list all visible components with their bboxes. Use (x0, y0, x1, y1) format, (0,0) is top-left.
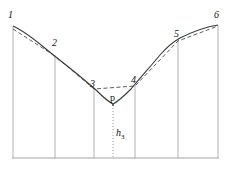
node-label-6: 6 (214, 10, 219, 20)
node-label-2: 2 (52, 38, 57, 48)
figure-canvas (0, 0, 230, 169)
figure-container: 1 2 3 4 5 6 p h3 (0, 0, 230, 169)
node-label-1: 1 (8, 10, 13, 20)
point-p-marker (112, 104, 114, 106)
dashed-interpolation-curve (13, 26, 218, 89)
node-label-4: 4 (131, 75, 136, 85)
height-label-subscript: 3 (121, 133, 125, 141)
node-label-3: 3 (90, 79, 95, 89)
height-label-h3: h3 (116, 128, 125, 141)
node-label-5: 5 (174, 29, 179, 39)
smooth-curve (13, 25, 218, 104)
point-p-label: p (110, 93, 115, 103)
